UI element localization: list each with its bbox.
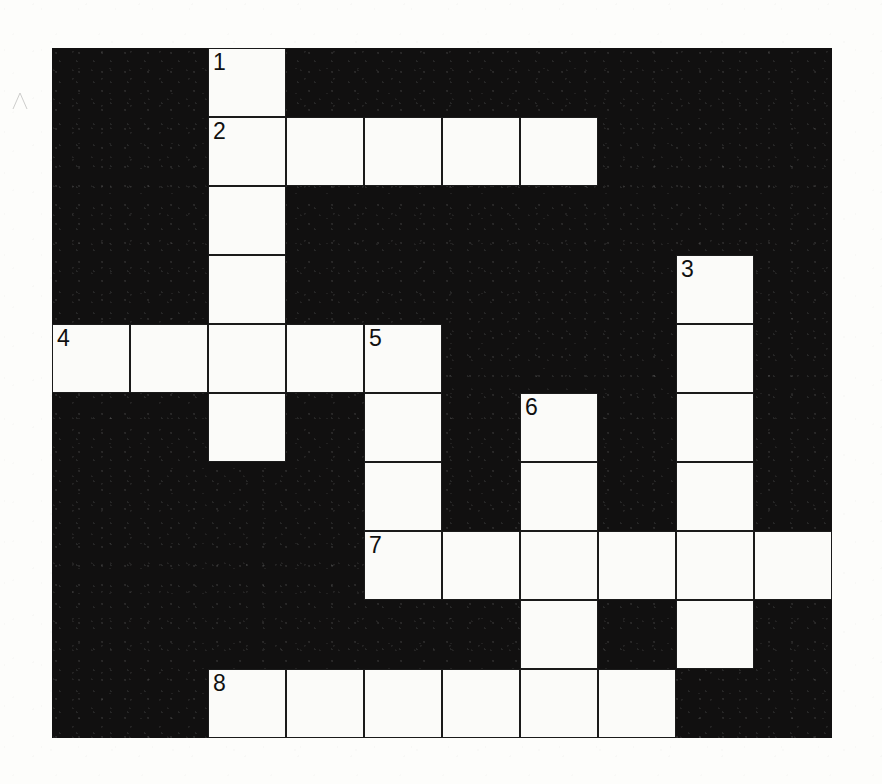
crossword-cell[interactable]: [364, 669, 442, 738]
crossword-block-square: [52, 669, 130, 738]
crossword-cell[interactable]: [520, 462, 598, 531]
crossword-block-square: [52, 117, 130, 186]
crossword-block-square: [364, 600, 442, 669]
crossword-block-square: [442, 462, 520, 531]
crossword-block-square: [208, 600, 286, 669]
crossword-block-square: [286, 462, 364, 531]
crossword-block-square: [598, 255, 676, 324]
crossword-cell-numbered-5[interactable]: 5: [364, 324, 442, 393]
crossword-block-square: [208, 462, 286, 531]
crossword-block-square: [442, 600, 520, 669]
crossword-block-square: [754, 462, 832, 531]
crossword-cell[interactable]: [442, 669, 520, 738]
crossword-cell[interactable]: [442, 531, 520, 600]
crossword-block-square: [520, 255, 598, 324]
crossword-block-square: [676, 117, 754, 186]
crossword-block-square: [598, 48, 676, 117]
crossword-cell[interactable]: [208, 186, 286, 255]
crossword-cell[interactable]: [286, 324, 364, 393]
crossword-block-square: [52, 255, 130, 324]
crossword-cell[interactable]: [520, 669, 598, 738]
crossword-block-square: [208, 531, 286, 600]
cell-number-8: 8: [213, 670, 226, 696]
crossword-block-square: [52, 462, 130, 531]
crossword-block-square: [442, 255, 520, 324]
crossword-cell[interactable]: [676, 393, 754, 462]
crossword-block-square: [754, 324, 832, 393]
cell-number-2: 2: [213, 118, 226, 144]
crossword-block-square: [754, 48, 832, 117]
crossword-block-square: [286, 255, 364, 324]
crossword-block-square: [286, 186, 364, 255]
crossword-cell[interactable]: [598, 669, 676, 738]
crossword-cell-numbered-2[interactable]: 2: [208, 117, 286, 186]
crossword-cell[interactable]: [676, 600, 754, 669]
cell-number-7: 7: [369, 532, 382, 558]
crossword-block-square: [52, 600, 130, 669]
crossword-block-square: [286, 393, 364, 462]
crossword-cell-numbered-1[interactable]: 1: [208, 48, 286, 117]
crossword-block-square: [130, 393, 208, 462]
crossword-cell[interactable]: [676, 462, 754, 531]
crossword-cell[interactable]: [676, 531, 754, 600]
crossword-cell[interactable]: [286, 117, 364, 186]
crossword-cell[interactable]: [364, 393, 442, 462]
crossword-block-square: [442, 393, 520, 462]
crossword-block-square: [286, 531, 364, 600]
crossword-block-square: [364, 186, 442, 255]
crossword-cell[interactable]: [520, 117, 598, 186]
crossword-cell[interactable]: [520, 531, 598, 600]
crossword-block-square: [130, 186, 208, 255]
crossword-cell[interactable]: [130, 324, 208, 393]
crossword-block-square: [442, 186, 520, 255]
crossword-block-square: [754, 255, 832, 324]
crossword-cell-numbered-8[interactable]: 8: [208, 669, 286, 738]
crossword-block-square: [754, 186, 832, 255]
crossword-block-square: [364, 48, 442, 117]
crossword-cell-numbered-4[interactable]: 4: [52, 324, 130, 393]
cell-number-4: 4: [57, 325, 70, 351]
crossword-block-square: [676, 186, 754, 255]
crossword-block-square: [286, 48, 364, 117]
crossword-block-square: [520, 324, 598, 393]
crossword-cell-numbered-7[interactable]: 7: [364, 531, 442, 600]
crossword-block-square: [130, 48, 208, 117]
crossword-block-square: [676, 669, 754, 738]
crossword-cell[interactable]: [520, 600, 598, 669]
cell-number-5: 5: [369, 325, 382, 351]
crossword-block-square: [598, 393, 676, 462]
crossword-block-square: [52, 531, 130, 600]
crossword-block-square: [130, 462, 208, 531]
crossword-block-square: [130, 531, 208, 600]
crossword-block-square: [52, 393, 130, 462]
crossword-block-square: [52, 48, 130, 117]
margin-pencil-mark: [12, 92, 28, 110]
crossword-cell[interactable]: [286, 669, 364, 738]
cell-number-3: 3: [681, 256, 694, 282]
crossword-cell[interactable]: [442, 117, 520, 186]
crossword-cell[interactable]: [208, 393, 286, 462]
crossword-cell[interactable]: [208, 324, 286, 393]
crossword-cell[interactable]: [598, 531, 676, 600]
crossword-block-square: [130, 117, 208, 186]
crossword-page: 12345678: [0, 0, 882, 784]
crossword-block-square: [364, 255, 442, 324]
crossword-cell-numbered-3[interactable]: 3: [676, 255, 754, 324]
crossword-cell[interactable]: [754, 531, 832, 600]
crossword-block-square: [598, 600, 676, 669]
crossword-cell-numbered-6[interactable]: 6: [520, 393, 598, 462]
crossword-block-square: [598, 117, 676, 186]
crossword-cell[interactable]: [208, 255, 286, 324]
cell-number-6: 6: [525, 394, 538, 420]
cell-number-1: 1: [213, 49, 226, 75]
crossword-grid[interactable]: 12345678: [52, 48, 832, 738]
crossword-block-square: [130, 669, 208, 738]
crossword-cell[interactable]: [364, 117, 442, 186]
crossword-block-square: [52, 186, 130, 255]
crossword-block-square: [676, 48, 754, 117]
crossword-block-square: [130, 255, 208, 324]
crossword-cell[interactable]: [364, 462, 442, 531]
crossword-block-square: [286, 600, 364, 669]
crossword-block-square: [442, 48, 520, 117]
crossword-cell[interactable]: [676, 324, 754, 393]
